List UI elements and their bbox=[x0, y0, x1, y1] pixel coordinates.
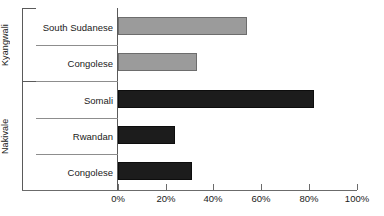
category-label-rwandan: Rwandan bbox=[73, 132, 117, 142]
group-label-kyangwali: Kyangwali bbox=[0, 12, 22, 78]
value-tick-100 bbox=[357, 184, 358, 190]
group-axis-tick-top bbox=[22, 8, 36, 9]
value-axis-label-100: 100% bbox=[345, 193, 369, 204]
value-axis-label-40: 40% bbox=[203, 193, 222, 204]
value-axis-label-80: 80% bbox=[299, 193, 318, 204]
value-tick-20 bbox=[166, 184, 167, 190]
value-axis-line bbox=[22, 190, 357, 191]
value-tick-0 bbox=[118, 184, 119, 190]
value-tick-60 bbox=[261, 184, 262, 190]
bar-somali[interactable] bbox=[118, 90, 314, 108]
group-axis-tick-middle bbox=[22, 81, 36, 82]
category-label-congolese-kyangwali: Congolese bbox=[68, 59, 117, 69]
value-tick-40 bbox=[213, 184, 214, 190]
category-separator-2 bbox=[36, 81, 118, 82]
category-separator-1 bbox=[36, 45, 118, 46]
bar-rwandan[interactable] bbox=[118, 126, 175, 144]
bar-congolese-kyangwali[interactable] bbox=[118, 53, 197, 71]
bar-congolese-nakivale[interactable] bbox=[118, 162, 192, 180]
category-separator-4 bbox=[36, 154, 118, 155]
value-axis-label-60: 60% bbox=[251, 193, 270, 204]
category-separator-3 bbox=[36, 118, 118, 119]
bar-south-sudanese[interactable] bbox=[118, 17, 247, 35]
group-label-nakivale: Nakivale bbox=[0, 88, 22, 184]
category-label-congolese-nakivale: Congolese bbox=[68, 168, 117, 178]
bar-chart: Kyangwali Nakivale South Sudanese Congol… bbox=[0, 0, 384, 216]
value-axis-label-20: 20% bbox=[156, 193, 175, 204]
value-axis-label-0: 0% bbox=[111, 193, 125, 204]
value-tick-80 bbox=[309, 184, 310, 190]
category-label-south-sudanese: South Sudanese bbox=[43, 23, 117, 33]
group-axis-line bbox=[22, 8, 23, 190]
category-label-somali: Somali bbox=[84, 96, 117, 106]
